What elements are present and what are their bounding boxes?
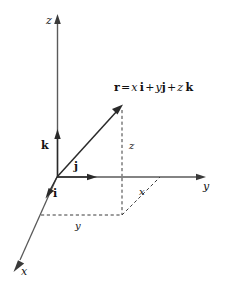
unit-vector-j-label: j [74,161,78,172]
equation-term3-unit: k [185,81,193,94]
equation-term1-scalar: x [131,81,137,94]
position-vector-r [57,105,123,178]
unit-vector-i-label: i [53,188,57,199]
y-component-label: y [75,221,81,231]
z-component-label: z [129,141,134,151]
equation-plus-2: + [166,81,177,94]
equation-equals: = [120,81,131,94]
unit-vector-k-label: k [41,140,49,151]
z-axis-label: z [46,15,52,26]
unit-vector-k [54,129,60,177]
unit-vector-j [57,174,97,180]
equation-term3-scalar: z [177,81,183,94]
equation-plus-1: + [144,81,155,94]
diagram-canvas [0,0,231,285]
vector-equation: r=x i+yj+z k [114,82,193,93]
x-axis-label: x [21,266,27,277]
y-axis-label: y [203,181,209,192]
x-component-label: x [139,187,145,197]
coordinate-system-figure: r=x i+yj+z k z y x k j i z x y [0,0,231,285]
